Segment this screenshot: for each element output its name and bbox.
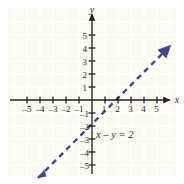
x-tick-label: 1 [102,104,107,114]
x-tick-label: 4 [141,104,146,114]
x-tick-label: –2 [61,104,71,114]
y-tick-label: 2 [83,70,88,80]
x-tick-label: –5 [22,104,33,114]
y-axis-label: y [89,4,95,15]
equation-label: x – y = 2 [95,129,134,140]
x-tick-label: 2 [115,104,120,114]
y-tick-label: –2 [79,122,89,132]
y-tick-label: 4 [83,44,88,54]
y-tick-label: –3 [79,135,90,145]
y-tick-label: –5 [79,161,90,171]
x-tick-label: 5 [154,104,159,114]
x-tick-label: –4 [35,104,46,114]
y-tick-label: 1 [83,83,88,93]
x-tick-label: –3 [48,104,59,114]
y-tick-label: –4 [79,148,90,158]
x-tick-label: 3 [128,104,133,114]
y-tick-label: 3 [83,57,88,67]
y-tick-label: –1 [79,109,89,119]
y-tick-label: 5 [83,31,88,41]
x-axis-label: x [174,94,180,105]
coordinate-plane-figure: –5 –4 –3 –2 –1 1 2 3 4 5 5 4 3 2 1 –1 –2… [0,0,184,184]
graph-canvas: –5 –4 –3 –2 –1 1 2 3 4 5 5 4 3 2 1 –1 –2… [0,0,184,184]
